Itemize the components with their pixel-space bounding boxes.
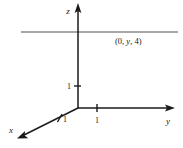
plane-point-prefix: (0, <box>115 36 126 46</box>
x-axis-label: x <box>8 125 13 135</box>
figure-canvas: z y x 1 1 1 (0, y, 4) <box>0 0 183 148</box>
x-axis-arrowhead-icon <box>17 131 28 138</box>
plane-point-annotation: (0, y, 4) <box>115 36 142 46</box>
plane-point-suffix: , 4) <box>130 36 142 46</box>
z-axis-label: z <box>65 6 70 16</box>
coordinate-system-figure: z y x 1 1 1 (0, y, 4) <box>0 0 183 148</box>
x-axis-line <box>24 108 78 135</box>
x-axis-tick-label-1: 1 <box>63 115 67 124</box>
y-axis-label: y <box>165 116 170 126</box>
y-axis-tick-label-1: 1 <box>95 116 99 125</box>
z-axis-tick-label-1: 1 <box>67 82 71 91</box>
